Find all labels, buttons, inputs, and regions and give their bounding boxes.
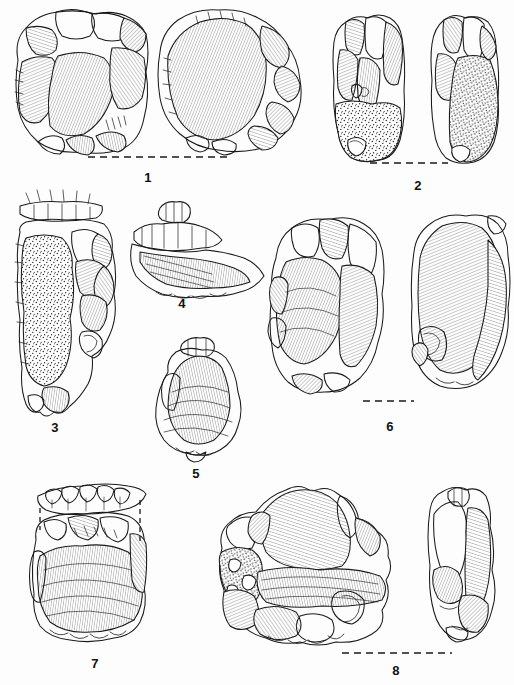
figure-label-3: 3 [51, 420, 58, 435]
figure-label-5: 5 [192, 466, 199, 481]
plate-drawing [0, 0, 514, 685]
figure-label-8: 8 [392, 663, 399, 678]
figure-label-7: 7 [91, 656, 98, 671]
figure-label-6: 6 [386, 419, 393, 434]
figure-label-4: 4 [178, 296, 185, 311]
illustration-plate: 1 2 3 4 5 6 7 8 [0, 0, 514, 685]
figure-label-1: 1 [144, 170, 151, 185]
figure-label-2: 2 [414, 178, 421, 193]
